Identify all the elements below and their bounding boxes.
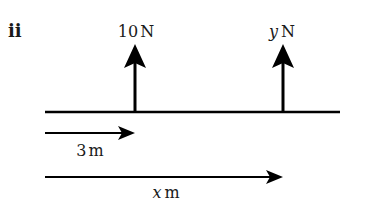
distance-arrow-xm xyxy=(45,170,283,184)
force-arrow-yn xyxy=(272,44,294,112)
beam-force-diagram: ii 10N yN 3m xm xyxy=(0,0,365,213)
part-label: ii xyxy=(8,20,22,41)
distance-label-2: xm xyxy=(152,183,179,202)
distance-arrow-3m xyxy=(45,126,135,140)
distance-label-1: 3m xyxy=(76,141,103,160)
force-label-2: yN xyxy=(268,22,295,41)
force-arrow-10n xyxy=(124,44,146,112)
force-label-1: 10N xyxy=(118,22,154,41)
